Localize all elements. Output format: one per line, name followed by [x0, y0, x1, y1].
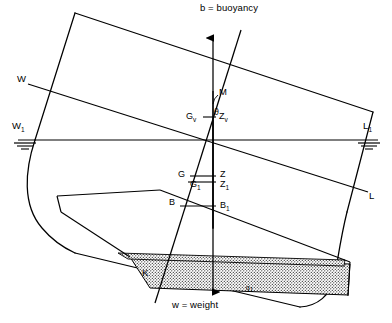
diagram-canvas [0, 0, 392, 323]
B-label: B [169, 198, 175, 207]
B1-label: B1 [220, 201, 230, 210]
waterline-L-label: L [369, 191, 374, 201]
Zv-subscript: v [225, 116, 228, 123]
waterline-L1-label: L1 [363, 121, 372, 131]
weight-label: w = weight [172, 300, 218, 310]
Z1-label: Z1 [220, 180, 229, 189]
G1-label: G1 [190, 180, 201, 189]
liquid-tank [57, 189, 364, 296]
metacentre-label: M [219, 87, 227, 97]
waterline-W1-label: W1 [12, 121, 25, 131]
Z-label: Z [220, 170, 226, 179]
G-label: G [178, 170, 185, 179]
Zv-label: Zv [219, 112, 228, 121]
ship-stability-diagram: b = buoyancy w = weight W L W1 L1 M θ Gv… [0, 0, 392, 323]
water-level-symbol-starboard [358, 143, 380, 149]
waterline-W1-subscript: 1 [21, 126, 25, 133]
waterline-W1-letter: W [12, 120, 21, 131]
buoyancy-label: b = buoyancy [200, 3, 258, 13]
B1-subscript: 1 [226, 205, 230, 212]
waterline-L1-subscript: 1 [368, 126, 372, 133]
Gv-label: Gv [186, 112, 196, 121]
righting-lever-ticks [180, 117, 216, 206]
Z1-subscript: 1 [226, 184, 230, 191]
theta-angle-arc [213, 95, 218, 104]
keel-label: K [142, 268, 148, 278]
Gv-subscript: v [193, 116, 196, 123]
tank-centroid-subscript: 1 [250, 286, 254, 293]
G1-subscript: 1 [197, 184, 201, 191]
tank-centroid-label: g1 [246, 285, 253, 292]
waterline-W-label: W [17, 74, 26, 84]
